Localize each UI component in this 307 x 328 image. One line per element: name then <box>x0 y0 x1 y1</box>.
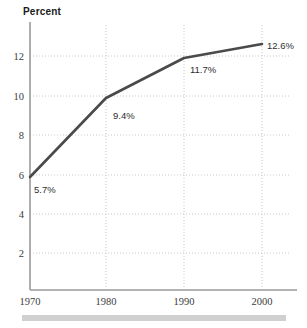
y-tick-8: 8 <box>19 130 24 141</box>
x-axis-tick-labels: 1970 1980 1990 2000 <box>20 296 273 307</box>
data-label-2000: 12.6% <box>267 40 294 51</box>
line-chart-plot: 12 10 8 6 4 2 1970 1980 1990 2000 5.7% 9… <box>0 0 307 328</box>
x-tick-1990: 1990 <box>174 296 195 307</box>
y-tick-12: 12 <box>14 51 25 62</box>
x-tick-1970: 1970 <box>20 296 41 307</box>
data-label-1980: 9.4% <box>113 110 135 121</box>
data-label-1990: 11.7% <box>190 64 217 75</box>
y-tick-6: 6 <box>19 170 24 181</box>
x-tick-1980: 1980 <box>96 296 117 307</box>
horizontal-gridlines <box>30 56 290 253</box>
vertical-gridlines <box>106 25 262 290</box>
footer-divider-bar <box>22 315 286 321</box>
data-point-labels: 5.7% 9.4% 11.7% 12.6% <box>34 40 294 195</box>
y-tick-10: 10 <box>14 91 25 102</box>
y-tick-4: 4 <box>19 209 25 220</box>
y-axis-tick-labels: 12 10 8 6 4 2 <box>14 51 25 259</box>
chart-container: Percent 12 10 8 6 4 2 <box>0 0 307 328</box>
x-tick-2000: 2000 <box>252 296 273 307</box>
y-tick-2: 2 <box>19 248 24 259</box>
data-series-line <box>30 44 262 177</box>
data-label-1970: 5.7% <box>34 184 56 195</box>
